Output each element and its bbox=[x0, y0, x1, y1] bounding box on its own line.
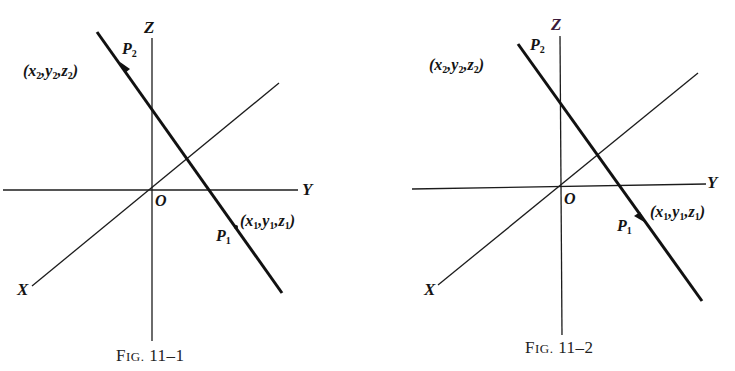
x-axis-label: X bbox=[424, 281, 435, 298]
p2-name: P bbox=[530, 36, 540, 53]
caption-small: ig. bbox=[535, 341, 553, 356]
p1-coordinates: (x1,y1,z1) bbox=[650, 204, 705, 222]
z-axis-label: Z bbox=[144, 19, 154, 36]
z-axis-label: Z bbox=[551, 16, 561, 33]
x-axis-label: X bbox=[17, 281, 28, 298]
x-axis bbox=[438, 73, 698, 285]
caption-prefix: F bbox=[525, 338, 535, 357]
caption-prefix: F bbox=[116, 346, 126, 365]
directed-line bbox=[518, 44, 702, 301]
figure-caption: Fig. 11–2 bbox=[525, 338, 594, 358]
figure-11-2: Z Y X O P2 (x2,y2,z2) P1 (x1,y1,z1) Fig.… bbox=[368, 0, 735, 371]
paren-close: ) bbox=[479, 56, 484, 73]
y-axis-label: Y bbox=[707, 174, 717, 191]
y-axis-label: Y bbox=[302, 181, 312, 198]
p2-subscript: 2 bbox=[132, 48, 137, 59]
paren-close: ) bbox=[290, 212, 295, 229]
caption-number: 11–2 bbox=[558, 338, 593, 357]
origin-label: O bbox=[564, 191, 576, 207]
figure-11-2-drawing bbox=[368, 0, 735, 371]
caption-small: ig. bbox=[126, 349, 144, 364]
p1-label: P1 bbox=[216, 228, 231, 246]
p2-label: P2 bbox=[122, 41, 137, 59]
p2-coordinates: (x2,y2,z2) bbox=[23, 63, 78, 81]
p1-name: P bbox=[617, 217, 627, 234]
p2-coordinates: (x2,y2,z2) bbox=[429, 57, 484, 75]
p2-subscript: 2 bbox=[540, 44, 545, 55]
p1-label: P1 bbox=[617, 218, 632, 236]
p1-subscript: 1 bbox=[226, 235, 231, 246]
origin-label: O bbox=[155, 193, 167, 209]
figure-11-1: Z Y X O P2 (x2,y2,z2) P1 (x1,y1,z1) Fig.… bbox=[0, 0, 368, 371]
caption-number: 11–1 bbox=[149, 346, 184, 365]
arrow-icon-toward-p1 bbox=[634, 212, 646, 223]
paren-close: ) bbox=[700, 203, 705, 220]
figure-caption: Fig. 11–1 bbox=[116, 346, 185, 366]
figure-11-1-drawing bbox=[0, 0, 368, 371]
p1-name: P bbox=[216, 227, 226, 244]
p1-point-marker bbox=[234, 225, 238, 229]
p2-label: P2 bbox=[530, 37, 545, 55]
p1-subscript: 1 bbox=[627, 225, 632, 236]
p2-name: P bbox=[122, 40, 132, 57]
p1-coordinates: (x1,y1,z1) bbox=[240, 213, 295, 231]
paren-close: ) bbox=[73, 62, 78, 79]
